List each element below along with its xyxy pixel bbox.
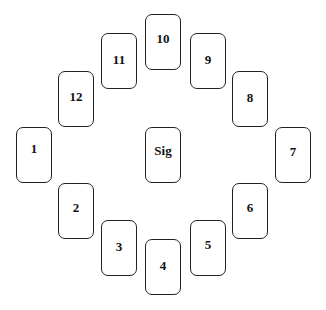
card-label: 4 [146, 259, 180, 273]
card-label: 3 [102, 240, 136, 254]
card-label: 6 [233, 201, 267, 215]
card-spread: 123456789101112Sig [0, 0, 326, 310]
card-label: 7 [276, 145, 310, 159]
card-position-1: 1 [16, 127, 52, 183]
card-position-6: 6 [232, 183, 268, 239]
card-label: 11 [102, 53, 136, 67]
card-position-2: 2 [58, 183, 94, 239]
card-position-4: 4 [145, 239, 181, 295]
card-position-10: 10 [145, 14, 181, 70]
card-position-12: 12 [58, 71, 94, 127]
card-position-11: 11 [101, 33, 137, 89]
card-label: 5 [191, 238, 225, 252]
card-label: 10 [146, 32, 180, 46]
card-position-sig: Sig [145, 127, 181, 183]
card-position-5: 5 [190, 220, 226, 276]
card-position-7: 7 [275, 127, 311, 183]
card-label: 12 [59, 90, 93, 104]
card-position-9: 9 [190, 33, 226, 89]
card-position-8: 8 [232, 71, 268, 127]
card-position-3: 3 [101, 220, 137, 276]
card-label: 2 [59, 201, 93, 215]
card-label: Sig [146, 144, 180, 158]
card-label: 9 [191, 53, 225, 67]
card-label: 8 [233, 91, 267, 105]
card-label: 1 [17, 142, 51, 156]
